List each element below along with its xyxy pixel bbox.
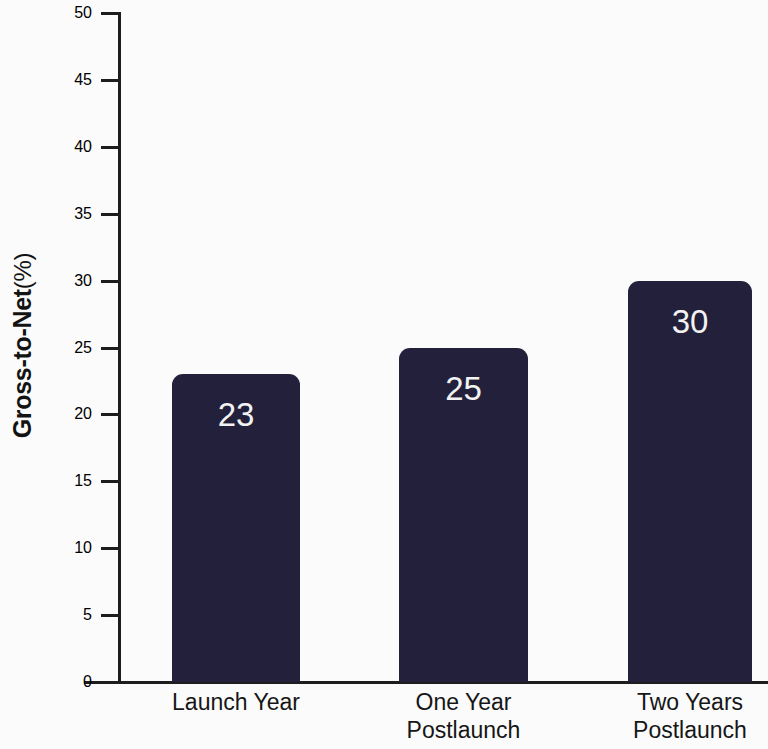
- x-axis-category-label: Two YearsPostlaunch: [570, 688, 768, 744]
- x-axis-category-label-line: Postlaunch: [344, 716, 584, 744]
- bar-value-label: 30: [628, 305, 752, 338]
- x-axis-labels: Launch YearOne YearPostlaunchTwo YearsPo…: [0, 688, 768, 749]
- bar-value-label: 25: [399, 372, 528, 405]
- x-axis-category-label: Launch Year: [116, 688, 356, 716]
- x-axis-category-label-line: Two Years: [570, 688, 768, 716]
- bars-group: 232530: [0, 0, 768, 682]
- bar: 25: [399, 348, 528, 683]
- x-axis-category-label-line: One Year: [344, 688, 584, 716]
- bar-chart: Gross-to-Net(%) 05101520253035404550 232…: [0, 0, 768, 749]
- bar: 30: [628, 281, 752, 682]
- bar-value-label: 23: [172, 398, 300, 431]
- x-axis-category-label-line: Postlaunch: [570, 716, 768, 744]
- x-axis-category-label: One YearPostlaunch: [344, 688, 584, 744]
- x-axis-category-label-line: Launch Year: [116, 688, 356, 716]
- bar: 23: [172, 374, 300, 682]
